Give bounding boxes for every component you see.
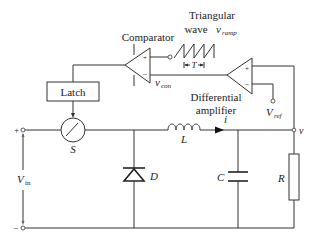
v-con-subscript: con (161, 82, 172, 90)
v-in-subscript: in (25, 179, 31, 187)
vin-plus-terminal (21, 128, 25, 132)
ramp-terminal (168, 55, 172, 59)
vin-plus-label: + (14, 125, 19, 135)
vref-terminal (271, 99, 275, 103)
vin-minus-terminal (21, 226, 25, 230)
diode-icon (124, 169, 144, 181)
current-label: i (224, 113, 227, 125)
comparator-minus: − (143, 70, 148, 79)
output-node (292, 128, 296, 132)
switch-label: S (70, 143, 76, 155)
v-ramp-label: v (216, 23, 221, 35)
differential-amplifier-label: Differential (190, 91, 241, 103)
differential-amplifier-label-2: amplifier (196, 104, 237, 116)
diode-label: D (149, 170, 158, 182)
v-ref-subscript: ref (274, 112, 283, 120)
v-ref-label: V (266, 106, 274, 118)
diff-amp-plus: + (245, 65, 249, 73)
v-ramp-subscript: ramp (222, 29, 237, 37)
triangular-wave-label-2: wave (184, 23, 207, 35)
period-marker: T (184, 60, 204, 70)
switch-s (61, 118, 85, 142)
differential-amplifier: + − (227, 58, 252, 94)
current-arrow-icon (215, 127, 224, 134)
comparator-plus: + (143, 54, 147, 62)
vin-minus-label: − (13, 223, 18, 233)
capacitor-label: C (217, 171, 225, 183)
resistor-label: R (277, 172, 285, 184)
resistor-icon (289, 154, 299, 200)
output-voltage-label: v (299, 125, 304, 136)
v-in-label: V (17, 173, 25, 185)
period-label: T (191, 60, 197, 70)
comparator: + − (125, 44, 150, 86)
diff-amp-minus: − (245, 80, 250, 89)
comparator-label: Comparator (122, 31, 175, 43)
latch-label: Latch (60, 86, 86, 98)
triangular-wave-label: Triangular (189, 9, 235, 21)
triangular-wave-icon (174, 44, 214, 58)
buck-converter-diagram: + − Comparator T Triangular wave v ramp … (0, 0, 315, 243)
inductor-icon (168, 124, 200, 130)
inductor-label: L (180, 133, 187, 145)
v-con-label: v (155, 76, 160, 88)
